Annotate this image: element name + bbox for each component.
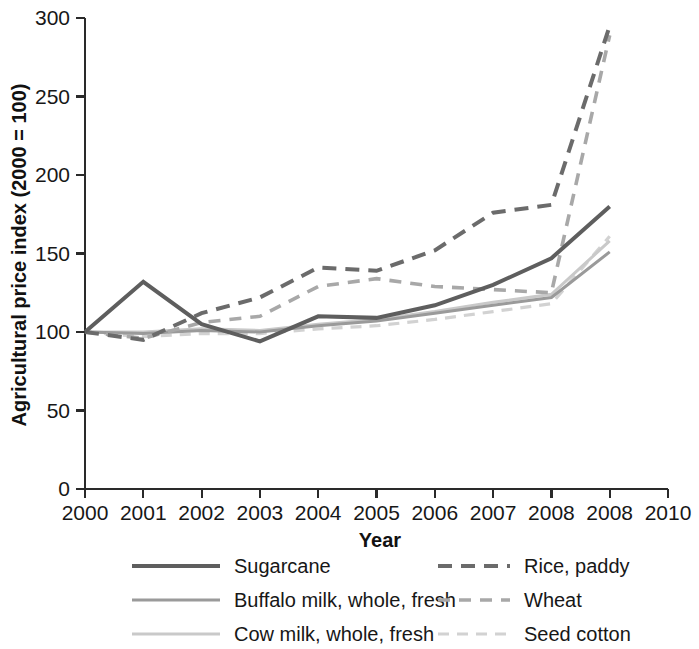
legend-item-wheat-label: Wheat bbox=[524, 589, 582, 611]
legend-item-rice-paddy-label: Rice, paddy bbox=[524, 555, 630, 577]
y-tick-label: 50 bbox=[47, 399, 70, 422]
y-tick-label: 100 bbox=[35, 320, 70, 343]
y-tick-label: 300 bbox=[35, 6, 70, 29]
x-tick-label: 2003 bbox=[237, 501, 284, 524]
x-tick-label: 2007 bbox=[470, 501, 517, 524]
legend-item-rice-paddy[interactable]: Rice, paddy bbox=[438, 555, 630, 577]
y-tick-label: 0 bbox=[58, 477, 70, 500]
legend-item-buffalo-milk-whole-fresh-label: Buffalo milk, whole, fresh bbox=[234, 589, 456, 611]
legend-item-cow-milk-whole-fresh-label: Cow milk, whole, fresh bbox=[234, 623, 434, 645]
y-axis: 050100150200250300 bbox=[35, 6, 85, 500]
x-tick-label: 2005 bbox=[353, 501, 400, 524]
legend-item-wheat[interactable]: Wheat bbox=[438, 589, 582, 611]
chart-canvas: 050100150200250300 200020012002200320042… bbox=[0, 0, 699, 649]
legend-item-sugarcane[interactable]: Sugarcane bbox=[132, 555, 331, 577]
legend-item-seed-cotton[interactable]: Seed cotton bbox=[438, 623, 631, 645]
x-tick-label: 2001 bbox=[120, 501, 167, 524]
legend-item-seed-cotton-label: Seed cotton bbox=[524, 623, 631, 645]
y-tick-label: 200 bbox=[35, 163, 70, 186]
x-tick-label: 2002 bbox=[178, 501, 225, 524]
series-line-rice-paddy bbox=[85, 26, 610, 340]
y-tick-label: 250 bbox=[35, 85, 70, 108]
x-tick-label: 2006 bbox=[411, 501, 458, 524]
x-tick-label: 2008 bbox=[586, 501, 633, 524]
x-tick-label: 2000 bbox=[62, 501, 109, 524]
legend-item-buffalo-milk-whole-fresh[interactable]: Buffalo milk, whole, fresh bbox=[132, 589, 456, 611]
x-axis-title: Year bbox=[359, 529, 401, 551]
agricultural-price-index-chart: 050100150200250300 200020012002200320042… bbox=[0, 0, 699, 649]
legend-item-cow-milk-whole-fresh[interactable]: Cow milk, whole, fresh bbox=[132, 623, 434, 645]
series-lines bbox=[85, 26, 610, 342]
x-tick-label: 2010 bbox=[645, 501, 692, 524]
x-tick-label: 2004 bbox=[295, 501, 342, 524]
y-tick-label: 150 bbox=[35, 242, 70, 265]
y-axis-title: Agricultural price index (2000 = 100) bbox=[8, 84, 30, 427]
legend-item-sugarcane-label: Sugarcane bbox=[234, 555, 331, 577]
x-axis: 2000200120022003200420052006200720082008… bbox=[62, 489, 692, 524]
x-tick-label: 2008 bbox=[528, 501, 575, 524]
series-line-wheat bbox=[85, 35, 610, 338]
chart-legend: SugarcaneRice, paddyBuffalo milk, whole,… bbox=[132, 555, 631, 645]
